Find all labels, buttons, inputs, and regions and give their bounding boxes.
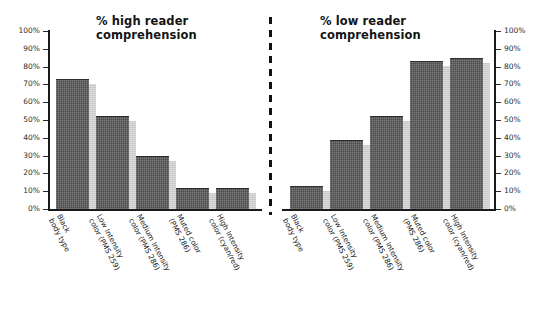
y-axis-tick: [43, 31, 48, 32]
y-axis-tick-label: 0%: [504, 205, 536, 213]
y-axis-tick: [43, 138, 48, 139]
y-axis-tick: [43, 120, 48, 121]
y-axis-tick-label: 100%: [504, 27, 536, 35]
y-axis-tick: [43, 102, 48, 103]
y-axis-tick: [43, 67, 48, 68]
y-axis-tick: [43, 49, 48, 50]
y-axis-tick-label: 10%: [504, 187, 536, 195]
y-axis-tick-label: 20%: [504, 169, 536, 177]
bar: [216, 188, 249, 209]
y-axis-tick: [496, 138, 501, 139]
y-axis-tick: [496, 67, 501, 68]
y-axis-tick: [43, 191, 48, 192]
bar: [330, 140, 363, 209]
bar: [56, 79, 89, 209]
y-axis-tick: [496, 156, 501, 157]
x-axis-baseline-high: [48, 209, 262, 211]
y-axis-tick-label: 50%: [504, 116, 536, 124]
y-axis-tick: [496, 209, 501, 210]
x-axis-baseline-low: [282, 209, 494, 211]
y-axis-tick-label: 100%: [8, 27, 40, 35]
y-axis-tick: [496, 84, 501, 85]
plot-area-high: [56, 31, 254, 209]
bar: [450, 58, 483, 209]
bar: [96, 116, 129, 209]
bar-shadow: [323, 191, 330, 209]
y-axis-tick-label: 80%: [504, 63, 536, 71]
bar-shadow: [169, 161, 176, 209]
bar: [290, 186, 323, 209]
y-axis-tick-label: 20%: [8, 169, 40, 177]
y-axis-tick: [43, 84, 48, 85]
bar: [370, 116, 403, 209]
chart-panel-high: % high reader comprehension 100%90%80%70…: [0, 0, 270, 323]
y-axis-tick-label: 50%: [8, 116, 40, 124]
y-axis-tick-label: 90%: [504, 45, 536, 53]
y-axis-tick-label: 60%: [504, 98, 536, 106]
y-axis-tick-label: 70%: [8, 80, 40, 88]
y-axis-tick-label: 40%: [504, 134, 536, 142]
bar: [136, 156, 169, 209]
y-axis-tick: [43, 173, 48, 174]
figure-root: % high reader comprehension 100%90%80%70…: [0, 0, 544, 323]
plot-area-low: [290, 31, 486, 209]
y-axis-tick-label: 0%: [8, 205, 40, 213]
y-axis-tick: [43, 156, 48, 157]
y-axis-tick-label: 90%: [8, 45, 40, 53]
bar-shadow: [483, 63, 490, 209]
y-axis-spine-high: [48, 30, 50, 211]
bar-shadow: [403, 121, 410, 209]
y-axis-tick-label: 40%: [8, 134, 40, 142]
bar-shadow: [363, 145, 370, 209]
y-axis-tick: [496, 49, 501, 50]
bar-shadow: [249, 193, 256, 209]
bar: [410, 61, 443, 209]
bar-shadow: [443, 66, 450, 209]
y-axis-tick-label: 60%: [8, 98, 40, 106]
bar: [176, 188, 209, 209]
y-axis-tick: [496, 173, 501, 174]
bar-shadow: [209, 193, 216, 209]
y-axis-tick: [43, 209, 48, 210]
chart-panel-low: % low reader comprehension 100%90%80%70%…: [272, 0, 544, 323]
y-axis-tick-label: 30%: [8, 152, 40, 160]
y-axis-tick-label: 70%: [504, 80, 536, 88]
y-axis-tick-label: 80%: [8, 63, 40, 71]
y-axis-tick: [496, 31, 501, 32]
bar-shadow: [129, 121, 136, 209]
bar-shadow: [89, 84, 96, 209]
y-axis-tick-label: 30%: [504, 152, 536, 160]
y-axis-tick: [496, 102, 501, 103]
y-axis-tick: [496, 191, 501, 192]
y-axis-tick: [496, 120, 501, 121]
y-axis-tick-label: 10%: [8, 187, 40, 195]
